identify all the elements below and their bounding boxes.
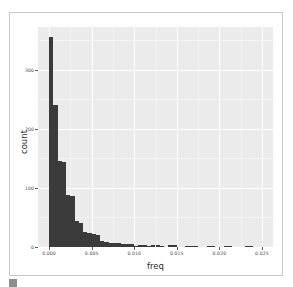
histogram-bar bbox=[228, 246, 232, 247]
x-tick-label: 0.005 bbox=[85, 251, 99, 256]
x-tick-label: 0.010 bbox=[127, 251, 141, 256]
x-tick-mark bbox=[92, 247, 93, 250]
x-tick-label: 0.015 bbox=[170, 251, 184, 256]
histogram-plot-card: 0.0000.0050.0100.0150.0200.025 010020030… bbox=[9, 12, 283, 276]
histogram-bar bbox=[249, 246, 253, 247]
y-tick-mark bbox=[35, 188, 38, 189]
x-tick-mark bbox=[219, 247, 220, 250]
y-tick-mark bbox=[35, 129, 38, 130]
x-tick-label: 0.025 bbox=[255, 251, 269, 256]
y-tick-label: 300 bbox=[16, 67, 34, 72]
plot-panel bbox=[38, 27, 273, 247]
y-tick-mark bbox=[35, 247, 38, 248]
histogram-bars bbox=[38, 27, 273, 247]
y-tick-label: 0 bbox=[16, 245, 34, 250]
histogram-bar bbox=[211, 246, 215, 247]
x-axis-label: freq bbox=[38, 261, 273, 271]
x-tick-label: 0.000 bbox=[42, 251, 56, 256]
x-tick-mark bbox=[262, 247, 263, 250]
histogram-figure: 0.0000.0050.0100.0150.0200.025 010020030… bbox=[10, 13, 282, 275]
x-tick-mark bbox=[177, 247, 178, 250]
x-tick-mark bbox=[49, 247, 50, 250]
below-card-swatch bbox=[9, 279, 17, 287]
y-axis-label: count bbox=[19, 102, 29, 182]
y-tick-label: 100 bbox=[16, 185, 34, 190]
x-tick-label: 0.020 bbox=[213, 251, 227, 256]
page-root: 0.0000.0050.0100.0150.0200.025 010020030… bbox=[0, 0, 293, 287]
y-tick-mark bbox=[35, 70, 38, 71]
x-tick-mark bbox=[134, 247, 135, 250]
histogram-bar bbox=[160, 246, 164, 247]
histogram-bar bbox=[194, 246, 198, 247]
below-card-strip bbox=[0, 278, 293, 287]
